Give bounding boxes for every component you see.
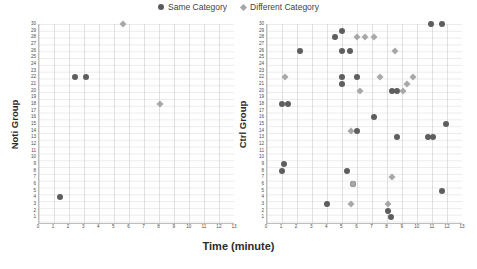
x-tick-label: 12 (444, 225, 449, 230)
data-point-circle (388, 214, 394, 220)
x-tick-label: 5 (112, 225, 115, 230)
y-tick-label: 2 (33, 208, 36, 213)
x-tick-label: 7 (370, 225, 373, 230)
x-tick-label: 1 (52, 225, 55, 230)
y-tick-label: 25 (31, 55, 36, 60)
data-point-circle (281, 161, 287, 167)
data-point-circle (339, 81, 345, 87)
y-tick-label: 6 (33, 182, 36, 187)
x-tick-label: 6 (355, 225, 358, 230)
y-tick-label: 26 (31, 48, 36, 53)
x-tick-label: 13 (231, 225, 236, 230)
y-tick-label: 7 (33, 175, 36, 180)
x-tick-label: 8 (385, 225, 388, 230)
scatter-figure: Same Category Different Category Noti Gr… (0, 0, 477, 269)
chart-legend: Same Category Different Category (0, 2, 477, 12)
y-tick-label: 14 (31, 128, 36, 133)
y-tick-label: 3 (261, 202, 264, 207)
y-tick-label: 17 (259, 108, 264, 113)
x-tick-label: 13 (459, 225, 464, 230)
y-tick-label: 30 (31, 22, 36, 27)
data-point-diamond (357, 87, 364, 94)
data-point-diamond (410, 74, 417, 81)
data-point-circle (354, 74, 360, 80)
y-tick-label: 8 (33, 168, 36, 173)
x-tick-label: 10 (414, 225, 419, 230)
y-tick-label: 19 (259, 95, 264, 100)
x-tick-label: 10 (186, 225, 191, 230)
x-tick-label: 2 (67, 225, 70, 230)
y-tick-label: 16 (259, 115, 264, 120)
y-tick-label: 28 (259, 35, 264, 40)
x-tick-label: 8 (157, 225, 160, 230)
x-tick-label: 12 (216, 225, 221, 230)
data-point-circle (339, 74, 345, 80)
legend-item-different-category: Different Category (241, 2, 319, 12)
data-point-circle (439, 188, 445, 194)
y-tick-label: 17 (31, 108, 36, 113)
y-tick-label: 9 (33, 162, 36, 167)
y-tick-label: 13 (31, 135, 36, 140)
y-tick-label: 18 (259, 102, 264, 107)
y-tick-label: 27 (259, 42, 264, 47)
y-tick-label: 5 (33, 188, 36, 193)
x-tick-label: 9 (172, 225, 175, 230)
y-tick-label: 19 (31, 95, 36, 100)
data-point-circle (443, 121, 449, 127)
y-tick-label: 29 (31, 28, 36, 33)
y-tick-label: 10 (31, 155, 36, 160)
data-point-diamond (404, 80, 411, 87)
y-tick-label: 18 (31, 102, 36, 107)
y-tick-label: 20 (31, 88, 36, 93)
y-tick-label: 7 (261, 175, 264, 180)
y-tick-label: 15 (259, 122, 264, 127)
x-tick-label: 6 (127, 225, 130, 230)
y-tick-label: 21 (259, 82, 264, 87)
x-tick-label: 11 (201, 225, 206, 230)
circle-marker-icon (158, 4, 164, 10)
panel-noti-group: Noti Group 12345678910111213141516171819… (8, 24, 244, 224)
y-tick-label: 3 (33, 202, 36, 207)
data-point-circle (83, 74, 89, 80)
x-tick-label: 7 (142, 225, 145, 230)
legend-label-different-category: Different Category (250, 2, 319, 12)
data-point-circle (347, 48, 353, 54)
legend-label-same-category: Same Category (168, 2, 227, 12)
x-tick-label: 11 (429, 225, 434, 230)
data-point-diamond (384, 200, 391, 207)
y-tick-label: 27 (31, 42, 36, 47)
x-tick-label: 2 (295, 225, 298, 230)
data-point-circle (339, 48, 345, 54)
y-axis-label-ctrl-group: Ctrl Group (236, 24, 250, 224)
y-tick-label: 22 (31, 75, 36, 80)
y-tick-label: 24 (259, 62, 264, 67)
x-tick-label: 3 (82, 225, 85, 230)
y-tick-label: 14 (259, 128, 264, 133)
y-tick-label: 23 (31, 68, 36, 73)
y-tick-label: 2 (261, 208, 264, 213)
data-point-diamond (282, 74, 289, 81)
x-tick-label: 3 (310, 225, 313, 230)
data-point-diamond (156, 100, 163, 107)
x-tick-label: 0 (265, 225, 268, 230)
y-tick-label: 12 (31, 142, 36, 147)
data-point-circle (279, 168, 285, 174)
x-tick-label: 9 (400, 225, 403, 230)
y-axis-label-noti-group: Noti Group (8, 24, 22, 224)
y-tick-label: 12 (259, 142, 264, 147)
plot-area-noti-group (38, 24, 234, 224)
y-tick-label: 10 (259, 155, 264, 160)
data-point-circle (332, 34, 338, 40)
y-tick-label: 4 (33, 195, 36, 200)
y-tick-label: 11 (31, 148, 36, 153)
x-tick-label: 4 (325, 225, 328, 230)
diamond-marker-icon (240, 3, 247, 10)
y-tick-label: 26 (259, 48, 264, 53)
y-tick-label: 30 (259, 22, 264, 27)
y-axis-ticks-left: 1234567891011121314151617181920212223242… (24, 24, 37, 224)
data-point-circle (394, 134, 400, 140)
x-tick-label: 5 (340, 225, 343, 230)
data-point-circle (428, 21, 434, 27)
y-tick-label: 23 (259, 68, 264, 73)
panel-ctrl-group: Ctrl Group 12345678910111213141516171819… (236, 24, 472, 224)
